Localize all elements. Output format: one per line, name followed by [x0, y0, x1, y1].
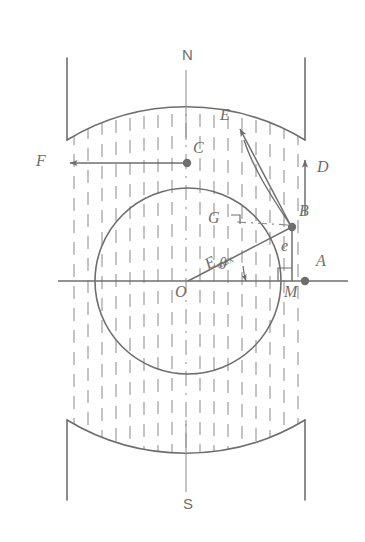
label-angle-theta: θ: [219, 256, 227, 272]
label-point-a: A: [316, 253, 326, 269]
label-point-o: O: [175, 284, 187, 300]
label-point-d: D: [317, 159, 329, 175]
label-point-m: M: [284, 284, 297, 300]
label-emf-small-e: e: [281, 238, 288, 254]
arrow-e: [240, 129, 291, 226]
magnet-field-diagram: N S F D E C B A M O G e Emax θ: [0, 0, 365, 542]
label-south-pole: S: [183, 496, 193, 511]
label-north-pole: N: [182, 47, 193, 62]
point-dot-c: [183, 159, 191, 167]
label-point-f: F: [36, 153, 46, 169]
point-dot-a: [301, 277, 309, 285]
label-point-b: B: [299, 203, 309, 219]
point-dot-b: [288, 223, 296, 231]
label-point-c: C: [193, 140, 204, 156]
field-hatching: [74, 92, 298, 460]
label-point-g: G: [208, 210, 220, 226]
label-point-e: E: [220, 107, 230, 123]
angle-arc-theta: [243, 266, 246, 281]
diagram-canvas: [0, 0, 365, 542]
